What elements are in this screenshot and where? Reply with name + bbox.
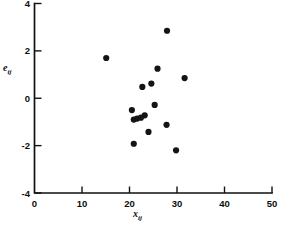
y-tick-label-4: 4	[25, 0, 31, 9]
data-point-1	[164, 28, 170, 34]
scatter-plot-figure: 01020304050420-2-4 eij xij	[0, 0, 282, 226]
x-tick-label-10: 10	[77, 198, 88, 209]
data-point-4	[148, 80, 154, 86]
y-tick-label-2: 2	[25, 45, 30, 56]
data-point-5	[139, 84, 145, 90]
data-point-15	[173, 147, 179, 153]
x-tick-label-0: 0	[32, 198, 37, 209]
y-tick-label--4: -4	[22, 188, 31, 199]
x-tick-label-20: 20	[124, 198, 135, 209]
axes-group	[35, 4, 273, 194]
tick-labels-group: 01020304050420-2-4	[22, 0, 278, 208]
data-point-13	[145, 129, 151, 135]
data-point-0	[103, 55, 109, 61]
data-point-6	[152, 102, 158, 108]
data-point-12	[163, 122, 169, 128]
x-tick-label-50: 50	[267, 198, 278, 209]
x-axis-label-subscript: ij	[138, 214, 142, 222]
x-tick-label-40: 40	[219, 198, 230, 209]
data-points-group	[103, 28, 188, 154]
scatter-plot-canvas: 01020304050420-2-4	[0, 0, 282, 226]
y-tick-label-0: 0	[25, 93, 30, 104]
x-axis-label: xij	[133, 208, 142, 222]
data-point-11	[131, 116, 137, 122]
x-tick-label-30: 30	[172, 198, 183, 209]
data-point-14	[131, 141, 137, 147]
data-point-3	[182, 75, 188, 81]
ticks-group	[35, 4, 273, 194]
axis-spines	[35, 4, 273, 194]
y-axis-label-subscript: ij	[7, 68, 11, 76]
y-tick-label--2: -2	[22, 140, 30, 151]
y-axis-label: eij	[3, 62, 11, 76]
data-point-2	[154, 66, 160, 72]
data-point-7	[129, 107, 135, 113]
